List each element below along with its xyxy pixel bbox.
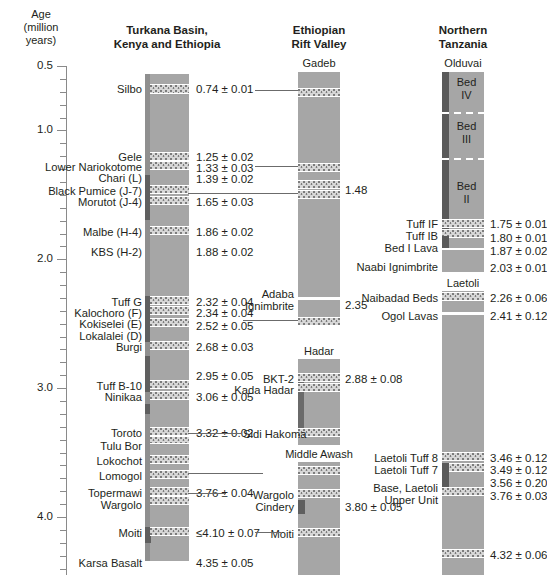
connector-nariokotome-gadeb (255, 166, 298, 167)
axis-tick-minor-0.8 (60, 105, 66, 106)
label-karsa-basalt: Karsa Basalt (20, 557, 142, 569)
tuff-band-tuffb10 (150, 380, 189, 389)
cindery-dark-band (298, 500, 305, 514)
value-naibadad-beds: 2.26 ± 0.06 (490, 292, 547, 304)
label-chari: Chari (L) (20, 172, 142, 184)
bed-label-ii: Bed II (449, 180, 484, 205)
axis-tick-major-1.0 (57, 130, 66, 131)
olduvai-lava-split (442, 248, 484, 250)
axis-label-0.5: 0.5 (13, 59, 53, 71)
axis-tick-major-4.0 (57, 517, 66, 518)
value-chari: 1.39 ± 0.02 (196, 173, 253, 185)
label-wargolo-turkana: Wargolo (20, 499, 142, 511)
label-naibadad-beds: Naibadad Beds (352, 292, 438, 304)
label-tuff-ib: Tuff IB (370, 230, 438, 242)
section-label-laetoli: Laetoli (420, 277, 506, 289)
tuff-band-ninikaa (150, 391, 189, 400)
label-laetoli-tuff-7: Laetoli Tuff 7 (352, 464, 438, 476)
label-morutot: Morutot (J-4) (20, 196, 142, 208)
label-laetoli-tuff-8: Laetoli Tuff 8 (352, 452, 438, 464)
axis-label-1.0: 1.0 (13, 123, 53, 135)
label-malbe: Malbe (H-4) (20, 226, 142, 238)
section-label-hadar: Hadar (276, 345, 362, 357)
tuff-band-gadeb-1 (298, 88, 340, 97)
axis-tick-minor-0.6 (60, 79, 66, 80)
tuff-band-malbe (150, 226, 189, 235)
bed-divider-iii-ii (442, 158, 484, 160)
value-morutot: 1.65 ± 0.03 (196, 196, 253, 208)
label-kada-hadar: Kada Hadar (218, 384, 294, 396)
value-naabi-ignimbrite: 2.03 ± 0.01 (490, 262, 547, 274)
value-burgi: 2.68 ± 0.03 (196, 341, 253, 353)
olduvai-dark-edge (442, 72, 449, 234)
tuff-band-wargolo (150, 496, 189, 505)
axis-tick-minor-3.2 (60, 414, 66, 415)
value-laetoli-tuff-7: 3.49 ± 0.12 (490, 464, 547, 476)
value-base-laetoli: 3.76 ± 0.03 (490, 490, 547, 502)
label-lomogol: Lomogol (20, 470, 142, 482)
tuff-band-if (442, 219, 484, 228)
axis-tick-minor-2.2 (60, 285, 66, 286)
tuff-band-burgi (150, 341, 189, 350)
value-karsa-basalt: 4.35 ± 0.05 (196, 557, 253, 569)
label-silbo: Silbo (20, 83, 142, 95)
connector-topermawi-wargolo (188, 493, 226, 494)
label-sidi-hakoma: Sidi Hakoma (243, 428, 323, 440)
axis-tick-minor-0.9 (60, 118, 66, 119)
connector-kokiselei-adaba (243, 320, 298, 321)
value-laetoli-356: 3.56 ± 0.20 (490, 477, 547, 489)
value-bed-i-lava: 1.87 ± 0.02 (490, 245, 547, 257)
tuff-band-kokiselei (150, 318, 189, 327)
label-lokochot: Lokochot (20, 455, 142, 467)
tuff-band-ma-top (298, 466, 340, 475)
tuff-band-adaba-base (298, 317, 340, 326)
label-toroto: Toroto (20, 427, 142, 439)
tuff-band-bkt2 (298, 373, 340, 382)
tuff-band-kalochoro (150, 306, 189, 315)
connector-toroto-sidihakoma (188, 433, 241, 434)
label-ogol-lavas: Ogol Lavas (352, 310, 438, 322)
tuff-band-topermawi (150, 487, 189, 496)
tuff-band-nariokotome (150, 161, 189, 170)
axis-tick-minor-4.4 (60, 569, 66, 570)
label-kbs: KBS (H-2) (20, 246, 142, 258)
tuff-band-moiti (150, 527, 189, 536)
value-kbs: 1.88 ± 0.02 (196, 246, 253, 258)
tuff-band-morutot (150, 196, 189, 205)
label-bed-i-lava: Bed I Lava (362, 242, 438, 254)
value-malbe: 1.86 ± 0.02 (196, 226, 253, 238)
tuff-band-laetoli-8 (442, 452, 484, 461)
label-moiti-turkana: Moiti (20, 527, 142, 539)
axis-title: Age (million years) (8, 8, 74, 47)
column-body-middle-awash (298, 462, 340, 575)
tuff-band-laetoli-base (442, 487, 484, 496)
value-tuff-ib: 1.80 ± 0.01 (490, 232, 547, 244)
axis-tick-major-2.0 (57, 259, 66, 260)
tuff-band-naibadad (442, 292, 484, 301)
value-laetoli-432: 4.32 ± 0.06 (490, 549, 547, 561)
connector-lomogol-awash (188, 473, 263, 474)
connector-moiti-moiti (255, 532, 281, 533)
tuff-band-blackpumice (150, 185, 189, 194)
tuff-band-kada-hadar (298, 383, 340, 392)
tuff-band-gadeb-2 (298, 163, 340, 172)
value-tuff-if: 1.75 ± 0.01 (490, 218, 547, 230)
turkana-basalt-edge-e (145, 404, 150, 414)
connector-silbo-gadeb (255, 90, 298, 91)
bed-label-iv: Bed IV (449, 76, 484, 101)
tuff-band-gadeb-3 (298, 180, 340, 189)
axis-tick-minor-3.5 (60, 453, 66, 454)
tuff-band-tuffg (150, 296, 189, 305)
connector-morutot-gadeb (188, 193, 298, 194)
tuff-band-lomogol (150, 470, 189, 479)
axis-tick-minor-2.8 (60, 362, 66, 363)
column-header-ethiopian: Ethiopian Rift Valley (258, 24, 380, 51)
label-wargolo-awash: Wargolo (228, 489, 294, 501)
tuff-band-ma-wargolo (298, 489, 340, 498)
bed-i-lava-band (442, 236, 449, 248)
label-cindery: Cindery (228, 501, 294, 513)
label-adaba-ignimbrite: Adaba Ignimbrite (228, 288, 294, 312)
label-naabi-ignimbrite: Naabi Ignimbrite (340, 261, 438, 273)
section-label-gadeb: Gadeb (276, 57, 362, 69)
label-ninikaa: Ninikaa (20, 391, 142, 403)
